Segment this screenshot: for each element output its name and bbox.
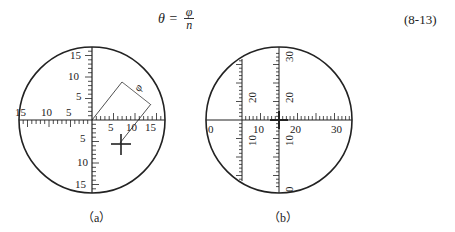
svg-text:10: 10 [253,123,265,135]
svg-text:5: 5 [80,132,86,144]
svg-text:5: 5 [76,90,82,102]
svg-text:20: 20 [290,123,302,135]
svg-text:15: 15 [70,49,82,61]
svg-text:10: 10 [126,121,138,133]
svg-text:10: 10 [246,135,258,147]
reticle-figures: 15 10 5 5 10 15 5 10 15 5 10 15 φ （a） 0 … [0,0,455,232]
svg-text:15: 15 [15,106,27,118]
reticle-b-labels: 0 10 20 30 10 20 0 10 20 30 [208,51,343,193]
svg-text:10: 10 [41,106,53,118]
svg-text:30: 30 [283,51,295,63]
svg-text:0: 0 [283,186,295,192]
svg-text:10: 10 [283,135,295,147]
svg-text:φ: φ [131,82,144,94]
svg-text:5: 5 [66,106,72,118]
svg-text:10: 10 [68,70,80,82]
svg-text:0: 0 [208,123,214,135]
svg-text:20: 20 [283,92,295,104]
svg-text:20: 20 [246,92,258,104]
caption-a: （a） [82,211,111,225]
svg-text:15: 15 [145,121,157,133]
svg-text:10: 10 [77,156,89,168]
svg-text:15: 15 [75,178,87,190]
svg-text:5: 5 [108,121,114,133]
reticle-a [19,47,165,193]
svg-text:30: 30 [331,123,343,135]
caption-b: （b） [268,211,298,225]
reticle-b [206,47,352,193]
